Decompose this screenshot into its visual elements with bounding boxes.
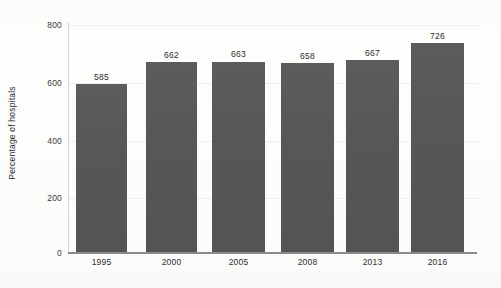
bar-value-1995: 585 — [76, 73, 127, 82]
y-tick-0: 0 — [22, 249, 62, 258]
bar-value-2005: 663 — [212, 50, 265, 59]
bar-value-2008: 658 — [281, 52, 334, 61]
x-tick-1995: 1995 — [76, 258, 127, 267]
bar-1995 — [76, 84, 127, 253]
bar-chart-figure: Percentage of hospitals 800 600 400 200 … — [0, 0, 501, 288]
x-tick-2000: 2000 — [146, 258, 197, 267]
y-axis-title: Percentage of hospitals — [7, 58, 17, 208]
bar-value-2013: 667 — [346, 49, 399, 58]
bar-value-2016: 726 — [411, 32, 464, 41]
x-tick-2016: 2016 — [411, 258, 464, 267]
y-tick-800: 800 — [22, 21, 62, 30]
gridline-800 — [68, 25, 478, 26]
y-axis-line — [68, 22, 69, 253]
bar-2005 — [212, 62, 265, 254]
bar-2016 — [411, 43, 464, 253]
bar-2013 — [346, 60, 399, 253]
x-tick-2008: 2008 — [281, 258, 334, 267]
bar-value-2000: 662 — [146, 51, 197, 60]
bar-2000 — [146, 62, 197, 253]
x-tick-2013: 2013 — [346, 258, 399, 267]
x-axis-line — [68, 252, 477, 254]
y-tick-200: 200 — [22, 194, 62, 203]
bar-2008 — [281, 63, 334, 253]
plot-area — [68, 22, 478, 253]
y-tick-400: 400 — [22, 137, 62, 146]
y-axis-tick-labels: 800 600 400 200 0 — [18, 0, 62, 288]
x-tick-2005: 2005 — [212, 258, 265, 267]
y-tick-600: 600 — [22, 79, 62, 88]
